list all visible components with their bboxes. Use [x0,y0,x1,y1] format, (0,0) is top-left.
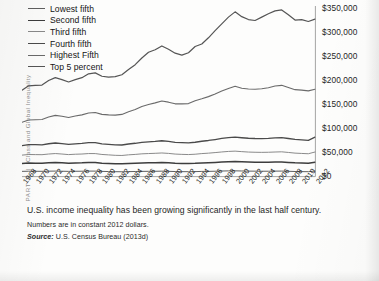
y-axis-label: $250,000 [322,51,357,61]
legend-item: Second fifth [28,15,168,27]
legend-swatch-line-icon [28,43,45,44]
figure-caption: U.S. income inequality has been growing … [27,204,357,242]
series-line-third-fifth [22,151,315,155]
legend-label: Second fifth [50,15,96,25]
caption-source-text: U.S. Census Bureau (2013d) [54,233,148,241]
x-axis-label: 2012 [314,167,331,186]
y-axis-label: $350,000 [322,3,357,13]
legend-label: Third fifth [50,27,86,37]
legend-label: Fourth fifth [50,39,92,49]
legend-swatch-line-icon [28,31,45,32]
y-axis-label: $200,000 [322,75,357,85]
y-axis-label: $50,000 [322,147,353,157]
chart-legend: Lowest fifthSecond fifthThird fifthFourt… [28,3,168,73]
caption-main: U.S. income inequality has been growing … [27,204,357,216]
caption-source-label: Source: [27,233,54,241]
legend-label: Top 5 percent [50,62,103,72]
caption-note: Numbers are in constant 2012 dollars. [27,221,357,230]
figure-page: PART 3 | Class and Global Inequality $35… [0,0,379,281]
legend-item: Third fifth [28,26,168,38]
legend-swatch-line-icon [28,55,45,56]
page-edge-shadow-bottom [0,271,379,281]
legend-swatch-line-icon [28,8,45,9]
y-axis-label: $100,000 [322,123,357,133]
legend-swatch-line-icon [28,20,45,21]
caption-source: Source: U.S. Census Bureau (2013d) [27,233,357,242]
y-axis-label: $300,000 [322,27,357,37]
legend-swatch-line-icon [28,66,45,67]
series-line-highest-fifth [22,85,315,122]
legend-item: Top 5 percent [28,61,168,73]
series-line-second-fifth [22,162,315,164]
series-line-fourth-fifth [22,137,315,146]
legend-item: Fourth fifth [28,38,168,50]
legend-item: Highest Fifth [28,49,168,61]
y-axis-label: $150,000 [322,99,357,109]
legend-item: Lowest fifth [28,3,168,15]
legend-label: Lowest fifth [50,4,94,14]
legend-label: Highest Fifth [50,50,99,60]
page-edge-shadow-right [365,0,379,281]
